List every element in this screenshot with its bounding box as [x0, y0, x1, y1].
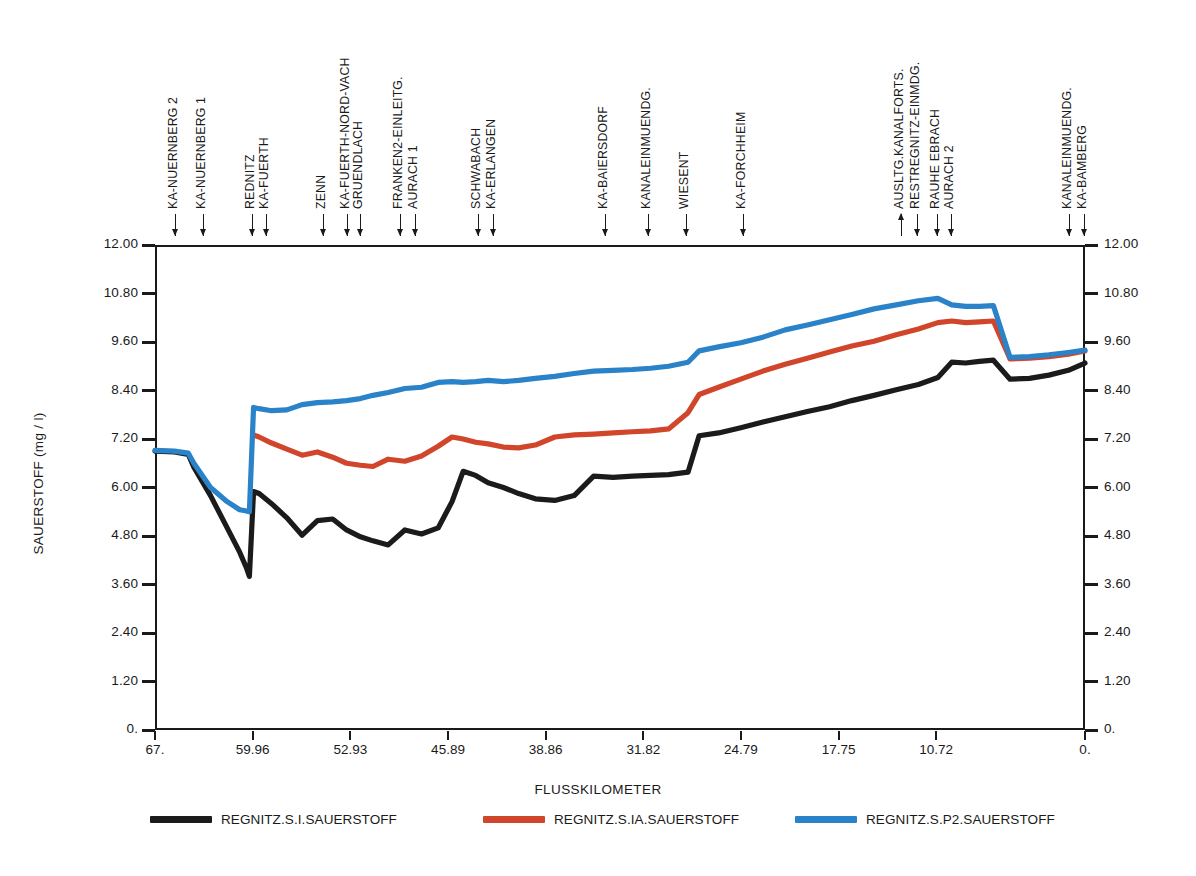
- x-tick-label: 10.72: [919, 742, 953, 757]
- y-tick-right: [1085, 632, 1098, 635]
- y-tick-right: [1085, 535, 1098, 538]
- y-tick-label-left: 4.80: [111, 527, 138, 542]
- y-tick-left: [142, 535, 155, 538]
- y-tick-right: [1085, 341, 1098, 344]
- x-tick-label: 45.89: [431, 742, 465, 757]
- station-label: KA-FUERTH: [257, 137, 271, 209]
- arrow-down-icon: [1066, 229, 1072, 236]
- arrow-down-icon: [344, 229, 350, 236]
- y-tick-right: [1085, 680, 1098, 683]
- arrow-down-icon: [412, 229, 418, 236]
- station-label: GRUENDLACH: [351, 121, 365, 209]
- y-tick-label-right: 7.20: [1104, 430, 1131, 445]
- x-tick-label: 0.: [1079, 742, 1090, 757]
- arrow-down-icon: [475, 229, 481, 236]
- x-tick-label: 38.86: [529, 742, 563, 757]
- y-tick-label-left: 8.40: [111, 382, 138, 397]
- y-tick-left: [142, 244, 155, 247]
- y-tick-left: [142, 583, 155, 586]
- y-tick-label-left: 0.: [127, 721, 138, 736]
- arrow-down-icon: [602, 229, 608, 236]
- legend-swatch: [150, 816, 212, 823]
- station-label: KA-BAIERSDORF: [596, 106, 610, 209]
- y-tick-label-right: 9.60: [1104, 333, 1131, 348]
- y-tick-label-left: 1.20: [111, 673, 138, 688]
- station-label: KANALEINMUENDG.: [639, 87, 653, 209]
- y-tick-label-right: 1.20: [1104, 673, 1131, 688]
- x-tick: [1084, 731, 1086, 740]
- y-tick-left: [142, 486, 155, 489]
- station-label: KA-FUERTH-NORD-VACH: [338, 57, 352, 209]
- station-label: ZENN: [314, 175, 328, 209]
- y-tick-label-right: 0.: [1104, 721, 1115, 736]
- legend-label: REGNITZ.S.I.SAUERSTOFF: [221, 812, 397, 827]
- y-tick-label-left: 6.00: [111, 479, 138, 494]
- arrow-down-icon: [249, 229, 255, 236]
- x-axis-title: FLUSSKILOMETER: [0, 782, 1196, 797]
- y-tick-right: [1085, 486, 1098, 489]
- station-label: RAUHE EBRACH: [928, 109, 942, 209]
- arrow-down-icon: [948, 229, 954, 236]
- x-tick-label: 17.75: [822, 742, 856, 757]
- y-tick-label-right: 10.80: [1104, 285, 1138, 300]
- station-label: KANALEINMUENDG.: [1060, 87, 1074, 209]
- station-label: KA-NUERNBERG 1: [194, 97, 208, 209]
- arrow-down-icon: [172, 229, 178, 236]
- station-label: KA-ERLANGEN: [484, 119, 498, 209]
- arrow-down-icon: [320, 229, 326, 236]
- y-tick-label-right: 3.60: [1104, 576, 1131, 591]
- arrow-down-icon: [263, 229, 269, 236]
- arrow-down-icon: [914, 229, 920, 236]
- arrow-down-icon: [1081, 229, 1087, 236]
- y-tick-right: [1085, 389, 1098, 392]
- y-tick-label-right: 8.40: [1104, 382, 1131, 397]
- y-tick-left: [142, 292, 155, 295]
- y-tick-label-right: 12.00: [1104, 236, 1138, 251]
- x-tick: [252, 731, 254, 740]
- station-label: FRANKEN2-EINLEITG.: [391, 76, 405, 209]
- legend-label: REGNITZ.S.P2.SAUERSTOFF: [866, 812, 1055, 827]
- y-tick-label-right: 2.40: [1104, 624, 1131, 639]
- legend-item[interactable]: REGNITZ.S.I.SAUERSTOFF: [150, 812, 397, 827]
- oxygen-profile-chart: 12.0010.809.608.407.206.004.803.602.401.…: [0, 0, 1196, 876]
- x-tick: [642, 731, 644, 740]
- arrow-down-icon: [397, 229, 403, 236]
- y-tick-right: [1085, 729, 1098, 732]
- x-tick: [935, 731, 937, 740]
- legend-item[interactable]: REGNITZ.S.IA.SAUERSTOFF: [483, 812, 739, 827]
- y-tick-left: [142, 389, 155, 392]
- y-tick-label-left: 12.00: [104, 236, 138, 251]
- x-tick: [349, 731, 351, 740]
- legend-item[interactable]: REGNITZ.S.P2.SAUERSTOFF: [795, 812, 1055, 827]
- y-tick-label-left: 3.60: [111, 576, 138, 591]
- station-label: KA-BAMBERG: [1075, 125, 1089, 209]
- x-tick-label: 31.82: [626, 742, 660, 757]
- arrow-down-icon: [490, 229, 496, 236]
- station-label: SCHWABACH: [469, 128, 483, 209]
- x-tick-label: 59.96: [236, 742, 270, 757]
- x-tick-label: 24.79: [724, 742, 758, 757]
- station-label: AUSLTG.KANALFORTS.: [892, 69, 906, 210]
- y-tick-label-right: 4.80: [1104, 527, 1131, 542]
- station-label: WIESENT: [677, 152, 691, 209]
- station-label: AURACH 1: [406, 145, 420, 209]
- y-tick-left: [142, 438, 155, 441]
- y-tick-label-left: 7.20: [111, 430, 138, 445]
- x-tick: [545, 731, 547, 740]
- x-tick: [154, 731, 156, 740]
- station-label: KA-FORCHHEIM: [734, 112, 748, 209]
- x-tick: [740, 731, 742, 740]
- arrow-down-icon: [683, 229, 689, 236]
- x-tick-label: 52.93: [333, 742, 367, 757]
- y-axis-title: SAUERSTOFF (mg / l): [31, 384, 46, 584]
- legend-swatch: [795, 816, 857, 823]
- arrow-down-icon: [645, 229, 651, 236]
- arrow-up-icon: [898, 213, 904, 220]
- arrow-down-icon: [740, 229, 746, 236]
- y-tick-right: [1085, 583, 1098, 586]
- station-label: AURACH 2: [942, 145, 956, 209]
- arrow-down-icon: [200, 229, 206, 236]
- arrow-down-icon: [357, 229, 363, 236]
- chart-legend: REGNITZ.S.I.SAUERSTOFFREGNITZ.S.IA.SAUER…: [0, 812, 1196, 842]
- station-label: KA-NUERNBERG 2: [166, 97, 180, 209]
